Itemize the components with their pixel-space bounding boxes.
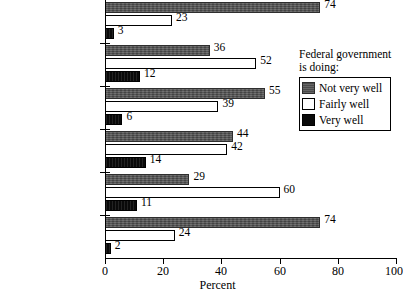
bar-not-very-well[interactable] [105,131,233,142]
legend-swatch-icon [302,114,315,126]
bar-value: 60 [284,184,296,195]
bar-value: 42 [231,141,243,152]
y-axis-tick [100,215,110,216]
bar-not-very-well[interactable] [105,217,320,228]
bar-value: 29 [193,171,205,182]
bar-value: 6 [126,111,132,122]
bar-group: Inflation 1979 74 24 2 [105,217,396,260]
bar-value: 14 [150,154,162,165]
bar-not-very-well[interactable] [105,88,265,99]
x-axis-tick-label: 40 [215,265,227,278]
legend-swatch-icon [302,82,315,94]
bar-group: Inflation 1988 29 60 11 [105,174,396,217]
bar-very-well[interactable] [105,71,140,82]
legend-box: Not very well Fairly well Very well [299,77,391,131]
legend-item-fairly-well[interactable]: Fairly well [302,96,387,112]
y-axis-tick [100,43,110,44]
bar-value: 44 [237,128,249,139]
bar-value: 74 [324,0,336,10]
bar-not-very-well[interactable] [105,174,189,185]
bar-very-well[interactable] [105,200,137,211]
bar-fairly-well[interactable] [105,187,280,198]
legend-item-label: Fairly well [319,98,369,110]
bar-very-well[interactable] [105,157,146,168]
x-axis-tick-label: 60 [274,265,286,278]
bar-value: 24 [179,227,191,238]
x-axis-tick-label: 0 [102,265,108,278]
bar-not-very-well[interactable] [105,45,210,56]
x-axis-tick-label: 100 [385,265,403,278]
legend-item-label: Not very well [319,82,382,94]
x-axis-line [105,258,396,259]
y-axis-tick [100,129,110,130]
x-axis-tick-label: 80 [332,265,344,278]
x-axis-title: Percent [0,279,401,292]
legend-item-very-well[interactable]: Very well [302,112,387,128]
bar-fairly-well[interactable] [105,15,172,26]
bar-group: Inflation 1993 44 42 14 [105,131,396,174]
bar-very-well[interactable] [105,28,114,39]
bar-fairly-well[interactable] [105,101,218,112]
legend-title-line2: is doing: [299,61,399,74]
bar-not-very-well[interactable] [105,2,320,13]
y-axis-tick [100,172,110,173]
bar-value: 12 [144,68,156,79]
bar-value: 11 [141,197,152,208]
bar-value: 74 [324,214,336,225]
x-axis-title-text: Percent [200,278,236,292]
bar-group: Unemployment 1993 74 23 3 [105,2,396,45]
bar-value: 39 [222,98,234,109]
bar-fairly-well[interactable] [105,144,227,155]
bar-value: 55 [269,85,281,96]
legend-title-line1: Federal government [299,48,399,61]
bar-value: 2 [115,240,121,251]
bar-value: 3 [118,25,124,36]
bar-value: 52 [260,55,272,66]
bar-value: 23 [176,12,188,23]
legend: Federal government is doing: Not very we… [299,48,399,131]
legend-item-label: Very well [319,114,363,126]
legend-swatch-icon [302,98,315,110]
bar-value: 36 [214,42,226,53]
legend-item-not-very-well[interactable]: Not very well [302,80,387,96]
x-axis-tick-label: 20 [157,265,169,278]
bar-fairly-well[interactable] [105,58,256,69]
y-axis-tick [100,86,110,87]
bar-very-well[interactable] [105,114,122,125]
